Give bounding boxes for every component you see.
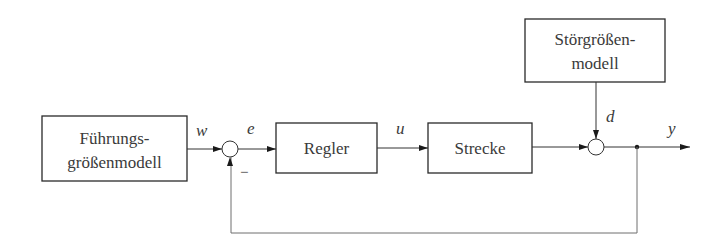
controller-label: Regler <box>304 139 350 158</box>
reference-model-label-line2: größenmodell <box>67 153 162 172</box>
error-signal-label: e <box>247 119 255 138</box>
output-arrow-icon <box>680 144 690 150</box>
plant-label: Strecke <box>455 139 506 158</box>
controller-block: Regler <box>276 123 377 173</box>
disturbance-model-label-line1: Störgrößen- <box>555 30 636 49</box>
reference-arrow-icon <box>213 146 222 152</box>
reference-signal-label: w <box>196 121 208 140</box>
plant-block: Strecke <box>428 123 532 173</box>
disturbance-model-block: Störgrößen- modell <box>525 19 665 82</box>
feedback-minus-sign: − <box>240 164 248 180</box>
feedback-arrow-icon <box>227 157 233 166</box>
reference-model-label-line1: Führungs- <box>80 129 150 148</box>
control-signal-label: u <box>396 119 405 138</box>
disturbance-arrow-icon <box>593 130 599 139</box>
output-signal-label: y <box>666 119 676 138</box>
summing-junction-disturbance <box>588 139 604 155</box>
block-diagram: Führungs- größenmodell w − e Regler u St… <box>0 0 721 245</box>
error-arrow-icon <box>267 146 276 152</box>
control-arrow-icon <box>419 145 428 151</box>
disturbance-model-label-line2: modell <box>571 54 618 73</box>
plant-output-arrow-icon <box>579 144 588 150</box>
disturbance-signal-label: d <box>606 107 615 126</box>
summing-junction-comparator <box>222 141 238 157</box>
reference-model-block: Führungs- größenmodell <box>42 116 187 181</box>
